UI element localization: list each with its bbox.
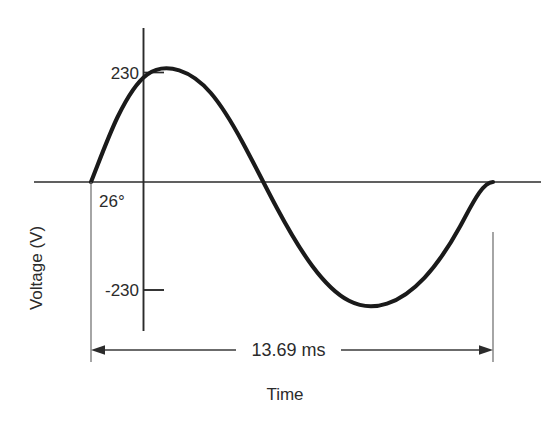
y-tick-label-neg230: -230 [105, 281, 139, 300]
dimension-arrowhead-left [91, 345, 105, 355]
phase-angle-label: 26° [99, 192, 125, 211]
x-axis-title: Time [266, 385, 303, 404]
voltage-waveform-curve [91, 68, 493, 306]
period-dimension-label: 13.69 ms [251, 340, 325, 360]
dimension-arrowhead-right [479, 345, 493, 355]
chart-canvas: 230 -230 26° 13.69 ms Time Voltage (V) [0, 0, 551, 422]
sine-waveform-chart: 230 -230 26° 13.69 ms Time Voltage (V) [0, 0, 551, 422]
y-axis-title: Voltage (V) [27, 226, 46, 310]
y-tick-label-230: 230 [111, 64, 139, 83]
